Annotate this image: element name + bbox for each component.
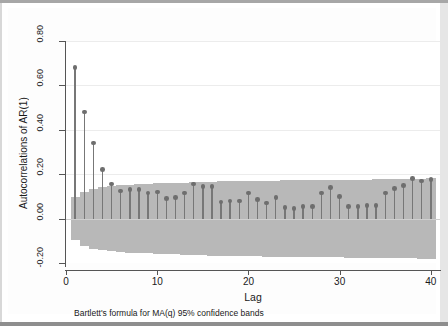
acf-stem bbox=[321, 193, 322, 219]
acf-stem bbox=[248, 193, 249, 219]
acf-stem bbox=[74, 68, 75, 219]
x-axis-tick-label: 30 bbox=[334, 276, 345, 287]
acf-marker bbox=[319, 191, 324, 196]
x-axis-tick bbox=[157, 270, 158, 275]
acf-marker bbox=[82, 110, 87, 115]
acf-stem bbox=[102, 170, 103, 219]
plot-area bbox=[66, 41, 440, 263]
x-axis-line bbox=[65, 270, 441, 271]
chart-canvas: Autocorrelations of AR(1) -0.200.000.200… bbox=[8, 8, 436, 314]
acf-marker bbox=[118, 189, 123, 194]
acf-marker bbox=[201, 184, 206, 189]
acf-stem bbox=[147, 193, 148, 219]
gridline-y-4 bbox=[66, 85, 440, 86]
acf-stem bbox=[421, 181, 422, 219]
acf-stem bbox=[430, 180, 431, 219]
acf-stem bbox=[175, 198, 176, 219]
acf-marker bbox=[429, 177, 434, 182]
x-axis-tick bbox=[248, 270, 249, 275]
acf-marker bbox=[91, 141, 96, 146]
x-axis-label: Lag bbox=[65, 291, 441, 303]
acf-stem bbox=[330, 188, 331, 219]
x-axis-tick-label: 20 bbox=[243, 276, 254, 287]
acf-stem bbox=[184, 193, 185, 219]
x-axis-tick bbox=[340, 270, 341, 275]
figure-left-border bbox=[0, 3, 2, 322]
x-axis-tick-label: 10 bbox=[152, 276, 163, 287]
x-axis-tick-label: 40 bbox=[425, 276, 436, 287]
acf-stem bbox=[193, 184, 194, 218]
acf-stem bbox=[266, 203, 267, 219]
acf-marker bbox=[374, 203, 379, 208]
acf-marker bbox=[128, 187, 133, 192]
chart-footnote: Bartlett's formula for MA(q) 95% confide… bbox=[74, 308, 264, 318]
acf-stem bbox=[385, 193, 386, 219]
acf-marker bbox=[410, 176, 415, 181]
acf-stem bbox=[275, 198, 276, 219]
acf-marker bbox=[210, 184, 215, 189]
acf-stem bbox=[202, 186, 203, 218]
figure-top-border bbox=[0, 0, 448, 3]
figure-right-border bbox=[440, 3, 448, 322]
acf-stem bbox=[394, 189, 395, 219]
acf-stem bbox=[84, 112, 85, 219]
gridline-y-5 bbox=[66, 41, 440, 42]
acf-marker bbox=[255, 197, 260, 202]
acf-stem bbox=[239, 201, 240, 219]
acf-stem bbox=[229, 201, 230, 219]
acf-marker bbox=[365, 203, 370, 208]
acf-stem bbox=[339, 196, 340, 218]
acf-stem bbox=[403, 185, 404, 218]
acf-marker bbox=[356, 204, 361, 209]
acf-marker bbox=[419, 179, 424, 184]
acf-marker bbox=[328, 185, 333, 190]
acf-stem bbox=[111, 184, 112, 218]
acf-marker bbox=[346, 204, 351, 209]
x-axis-tick bbox=[431, 270, 432, 275]
acf-stem bbox=[120, 191, 121, 219]
acf-stem bbox=[138, 190, 139, 219]
acf-marker bbox=[246, 191, 251, 196]
acf-stem bbox=[257, 200, 258, 219]
acf-stem bbox=[412, 179, 413, 219]
x-axis-tick bbox=[66, 270, 67, 275]
acf-marker bbox=[274, 195, 279, 200]
figure-bottom-border bbox=[0, 322, 448, 326]
acf-marker bbox=[100, 167, 105, 172]
acf-stem bbox=[157, 192, 158, 219]
acf-marker bbox=[237, 199, 242, 204]
acf-marker bbox=[164, 196, 169, 201]
acf-stem bbox=[220, 202, 221, 219]
gridline-y-3 bbox=[66, 130, 440, 131]
acf-marker bbox=[283, 205, 288, 210]
y-axis-label: Autocorrelations of AR(1) bbox=[18, 8, 29, 298]
x-axis-tick-label: 0 bbox=[63, 276, 69, 287]
acf-marker bbox=[73, 65, 78, 70]
acf-marker bbox=[401, 183, 406, 188]
acf-stem bbox=[93, 143, 94, 218]
acf-marker bbox=[337, 194, 342, 199]
zero-reference-line bbox=[66, 219, 440, 220]
acf-marker bbox=[173, 195, 178, 200]
acf-marker bbox=[155, 190, 160, 195]
acf-figure: Autocorrelations of AR(1) -0.200.000.200… bbox=[0, 0, 448, 330]
acf-stem bbox=[166, 199, 167, 219]
gridline-y-2 bbox=[66, 174, 440, 175]
acf-stem bbox=[129, 190, 130, 219]
acf-marker bbox=[383, 191, 388, 196]
y-axis-tick-label: 0.80 bbox=[35, 25, 436, 43]
acf-marker bbox=[392, 186, 397, 191]
acf-stem bbox=[211, 186, 212, 218]
acf-marker bbox=[310, 204, 315, 209]
